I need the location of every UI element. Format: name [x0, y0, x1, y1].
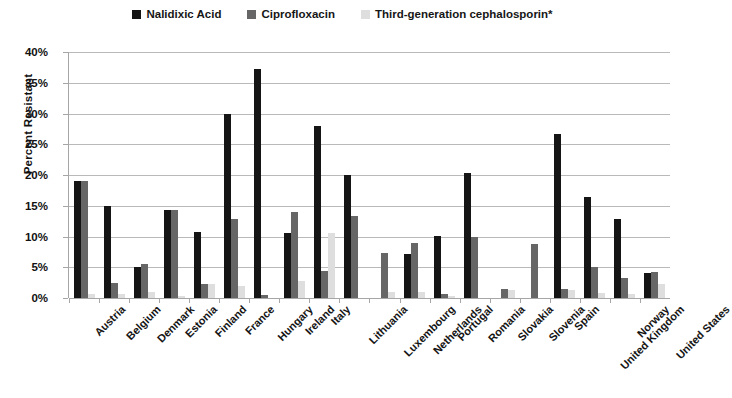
bar-0[interactable] — [194, 232, 201, 298]
bar-0[interactable] — [614, 219, 621, 298]
x-category-label: Lithuania — [366, 303, 409, 346]
bar-group — [400, 52, 430, 298]
bar-0[interactable] — [464, 173, 471, 298]
bar-group — [460, 52, 490, 298]
bar-2[interactable] — [568, 290, 575, 298]
y-tick-mark — [63, 114, 68, 115]
bar-1[interactable] — [651, 272, 658, 298]
bar-2[interactable] — [628, 294, 635, 298]
bar-1[interactable] — [291, 212, 298, 298]
bar-group — [129, 52, 159, 298]
bar-2[interactable] — [658, 284, 665, 298]
bar-0[interactable] — [164, 210, 171, 298]
bar-group — [159, 52, 189, 298]
bar-1[interactable] — [531, 244, 538, 298]
x-category-label: Finland — [213, 303, 249, 339]
bar-0[interactable] — [104, 206, 111, 298]
y-tick-mark — [63, 175, 68, 176]
bar-2[interactable] — [418, 292, 425, 298]
legend-item-0[interactable]: Nalidixic Acid — [132, 8, 221, 20]
bar-2[interactable] — [88, 294, 95, 298]
bar-group — [550, 52, 580, 298]
bar-groups — [69, 52, 670, 298]
bar-2[interactable] — [238, 286, 245, 298]
legend-swatch-icon — [132, 10, 141, 19]
y-tick-mark — [63, 298, 68, 299]
bar-1[interactable] — [231, 219, 238, 298]
y-tick-mark — [63, 267, 68, 268]
bar-1[interactable] — [81, 181, 88, 298]
y-tick-label: 10% — [0, 231, 48, 243]
y-tick-label: 25% — [0, 138, 48, 150]
legend-label: Nalidixic Acid — [146, 8, 221, 20]
bar-2[interactable] — [298, 281, 305, 298]
bar-0[interactable] — [644, 273, 651, 298]
bar-group — [640, 52, 670, 298]
bar-1[interactable] — [141, 264, 148, 298]
y-tick-label: 0% — [0, 292, 48, 304]
bar-group — [580, 52, 610, 298]
bar-2[interactable] — [388, 292, 395, 298]
bar-1[interactable] — [441, 294, 448, 298]
bar-group — [99, 52, 129, 298]
bar-1[interactable] — [381, 253, 388, 299]
bar-group — [610, 52, 640, 298]
bar-2[interactable] — [148, 292, 155, 298]
bar-0[interactable] — [554, 134, 561, 298]
bar-0[interactable] — [344, 175, 351, 298]
bar-group — [430, 52, 460, 298]
y-tick-mark — [63, 206, 68, 207]
bar-1[interactable] — [501, 289, 508, 298]
bar-1[interactable] — [471, 237, 478, 299]
bar-0[interactable] — [404, 254, 411, 298]
y-tick-label: 30% — [0, 108, 48, 120]
bar-1[interactable] — [351, 216, 358, 298]
bar-2[interactable] — [508, 290, 515, 298]
bar-group — [490, 52, 520, 298]
y-tick-mark — [63, 52, 68, 53]
bar-group — [369, 52, 399, 298]
chart-legend: Nalidixic AcidCiprofloxacinThird-generat… — [0, 8, 685, 20]
bar-1[interactable] — [321, 271, 328, 298]
bar-1[interactable] — [411, 243, 418, 298]
bar-2[interactable] — [118, 294, 125, 298]
y-tick-label: 20% — [0, 169, 48, 181]
bar-1[interactable] — [561, 289, 568, 298]
plot-wrapper: 40%35%30%25%20%15%10%5%0% — [68, 52, 670, 298]
bar-1[interactable] — [111, 283, 118, 298]
bar-0[interactable] — [134, 267, 141, 298]
bar-1[interactable] — [621, 278, 628, 298]
legend-item-2[interactable]: Third-generation cephalosporin* — [361, 8, 553, 20]
bar-0[interactable] — [584, 197, 591, 298]
bar-group — [189, 52, 219, 298]
bar-0[interactable] — [314, 126, 321, 298]
legend-swatch-icon — [247, 10, 256, 19]
bar-2[interactable] — [208, 284, 215, 298]
bar-2[interactable] — [178, 296, 185, 298]
bar-1[interactable] — [591, 267, 598, 298]
y-tick-label: 40% — [0, 46, 48, 58]
bar-1[interactable] — [171, 210, 178, 298]
y-tick-mark — [63, 83, 68, 84]
bar-group — [69, 52, 99, 298]
bar-1[interactable] — [261, 295, 268, 298]
bar-2[interactable] — [448, 296, 455, 298]
x-axis-category-labels: AustriaBelgiumDenmarkEstoniaFinlandFranc… — [68, 303, 670, 398]
bar-group — [520, 52, 550, 298]
bar-0[interactable] — [224, 114, 231, 299]
bar-0[interactable] — [434, 236, 441, 298]
legend-label: Ciprofloxacin — [261, 8, 334, 20]
bar-2[interactable] — [328, 233, 335, 298]
bar-group — [219, 52, 249, 298]
bar-0[interactable] — [284, 233, 291, 298]
bar-0[interactable] — [74, 181, 81, 298]
y-tick-mark — [63, 237, 68, 238]
legend-item-1[interactable]: Ciprofloxacin — [247, 8, 334, 20]
x-category-label: France — [242, 303, 276, 337]
plot-area — [68, 52, 670, 298]
bar-0[interactable] — [254, 69, 261, 298]
bar-2[interactable] — [598, 293, 605, 298]
bar-1[interactable] — [201, 284, 208, 298]
legend-label: Third-generation cephalosporin* — [375, 8, 553, 20]
bar-group — [279, 52, 309, 298]
